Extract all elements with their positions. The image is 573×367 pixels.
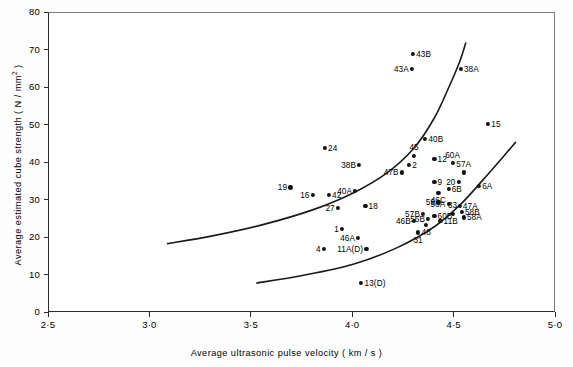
data-point-label: 46B (396, 217, 411, 226)
y-tick-label: 10 (4, 269, 40, 280)
x-tick-label: 3·0 (124, 319, 174, 330)
x-tick-label: 4·0 (327, 319, 377, 330)
y-tick-mark (44, 274, 48, 275)
data-point-label: 11B (444, 217, 458, 226)
data-point-label: 9 (438, 177, 443, 186)
y-tick-label: 40 (4, 156, 40, 167)
x-tick-mark (48, 312, 49, 317)
data-point-label: 13(D) (365, 279, 386, 288)
data-point-label: 33 (448, 201, 457, 210)
data-point-label: 57A (456, 160, 471, 169)
y-tick-label: 60 (4, 81, 40, 92)
data-point-label: 48 (422, 228, 431, 237)
data-point-label: 43B (416, 50, 431, 59)
y-axis-title-superscript: 2 (11, 71, 18, 75)
data-point-label: 47B (384, 168, 399, 177)
y-tick-mark (44, 12, 48, 13)
x-tick-mark (352, 312, 353, 317)
data-point-label: 31 (413, 236, 422, 245)
y-tick-label: 0 (4, 306, 40, 317)
data-point-label: 56A (430, 200, 445, 209)
x-tick-mark (555, 312, 556, 317)
data-point-label: 43A (394, 65, 409, 74)
y-axis-title-tail: ) (13, 64, 23, 71)
y-tick-label: 70 (4, 44, 40, 55)
data-point-label: 6B (452, 185, 462, 194)
x-tick-mark (250, 312, 251, 317)
data-point-label: 2 (412, 160, 417, 169)
y-tick-mark (44, 49, 48, 50)
data-point-label: 58A (467, 213, 482, 222)
data-point-label: 18 (369, 202, 378, 211)
data-point-label: 4 (316, 245, 321, 254)
data-point-label: 27 (325, 204, 334, 213)
data-point-label: 24 (328, 144, 337, 153)
y-tick-label: 50 (4, 119, 40, 130)
y-tick-mark (44, 162, 48, 163)
data-point-label: 16 (300, 190, 309, 199)
y-tick-mark (44, 87, 48, 88)
x-tick-label: 5·0 (530, 319, 573, 330)
data-point-label: 45 (409, 143, 418, 152)
y-tick-label: 80 (4, 6, 40, 17)
data-point-label: 40B (428, 134, 443, 143)
data-point-label: 38A (464, 65, 479, 74)
boundary-curves (49, 13, 556, 313)
data-point-label: 42 (332, 190, 341, 199)
data-point-label: 38B (341, 160, 356, 169)
y-tick-label: 30 (4, 194, 40, 205)
chart-figure: Average estimated cube strength ( N / mm… (0, 0, 573, 367)
y-tick-mark (44, 237, 48, 238)
x-tick-label: 3·5 (226, 319, 276, 330)
x-axis-title: Average ultrasonic pulse velocity ( km /… (0, 348, 573, 358)
y-tick-label: 20 (4, 231, 40, 242)
data-point-label: 6A (482, 181, 492, 190)
data-point-label: 11A(D) (337, 245, 363, 254)
data-point-label: 46A (340, 234, 355, 243)
x-tick-mark (149, 312, 150, 317)
data-point-label: 19 (278, 183, 287, 192)
data-point-label: 15 (491, 119, 500, 128)
data-point-label: 60A (445, 151, 460, 160)
y-tick-mark (44, 199, 48, 200)
x-tick-label: 2·5 (23, 319, 73, 330)
x-tick-label: 4·5 (429, 319, 479, 330)
x-tick-mark (453, 312, 454, 317)
plot-area: 43B43A38A1540B24451260A38B257A47B2096A46… (48, 12, 555, 312)
y-tick-mark (44, 124, 48, 125)
data-point-label: 1 (334, 224, 339, 233)
